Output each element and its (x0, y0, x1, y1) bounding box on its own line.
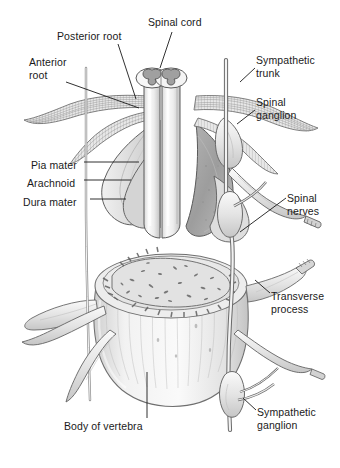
spinal-cord-cylinder (136, 68, 187, 238)
label-body-of-vertebra: Body of vertebra (64, 420, 143, 433)
label-spinal-ganglion: Spinal ganglion (256, 96, 297, 121)
label-pia-mater: Pia mater (31, 159, 77, 172)
label-posterior-root: Posterior root (57, 30, 121, 43)
label-dura-mater: Dura mater (23, 196, 77, 209)
label-spinal-nerves: Spinal nerves (287, 192, 319, 217)
label-sympathetic-trunk: Sympathetic trunk (256, 54, 315, 79)
label-sympathetic-ganglion: Sympathetic ganglion (257, 406, 316, 431)
sympathetic-ganglion-lower (220, 372, 245, 418)
label-transverse-process: Transverse process (271, 290, 324, 315)
label-arachnoid: Arachnoid (27, 177, 75, 190)
label-anterior-root: Anterior root (29, 56, 67, 81)
label-spinal-cord: Spinal cord (148, 16, 202, 29)
sympathetic-ganglion-upper (218, 192, 243, 238)
